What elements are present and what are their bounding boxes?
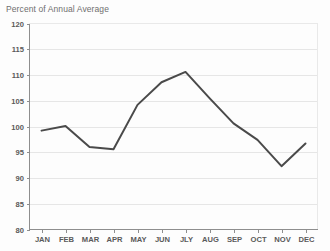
- y-tick-label: 115: [12, 45, 25, 54]
- x-tick-label: JAN: [35, 235, 50, 244]
- y-tick-label: 105: [11, 97, 24, 106]
- x-tick-label: AUG: [202, 235, 219, 244]
- y-tick-label: 85: [16, 200, 25, 209]
- y-tick-label: 80: [16, 226, 24, 235]
- x-tick-marks: [43, 230, 307, 234]
- chart-container: Percent of Annual Average 80859095100105…: [0, 0, 330, 251]
- x-tick-label: OCT: [250, 235, 266, 244]
- x-tick-label: APR: [106, 235, 123, 244]
- x-tick-label: FEB: [59, 235, 75, 244]
- plot-area-border: [30, 24, 318, 230]
- gridlines: [30, 50, 318, 205]
- line-chart-plot: 80859095100105110115120 JANFEBMARAPRMAYJ…: [0, 0, 330, 251]
- x-tick-label: DEC: [298, 235, 315, 244]
- y-tick-label: 110: [12, 71, 24, 80]
- x-tick-label: MAY: [130, 235, 146, 244]
- y-tick-label: 90: [16, 174, 24, 183]
- x-tick-labels: JANFEBMARAPRMAYJUNJLYAUGSEPOCTNOVDEC: [35, 235, 315, 244]
- x-tick-label: NOV: [274, 235, 291, 244]
- x-tick-label: SEP: [227, 235, 242, 244]
- y-tick-label: 100: [11, 123, 24, 132]
- y-tick-label: 95: [16, 148, 25, 157]
- x-tick-label: JLY: [180, 235, 193, 244]
- x-tick-label: JUN: [155, 235, 170, 244]
- y-tick-label: 120: [11, 20, 24, 29]
- y-tick-labels: 80859095100105110115120: [11, 20, 24, 235]
- x-tick-label: MAR: [82, 235, 100, 244]
